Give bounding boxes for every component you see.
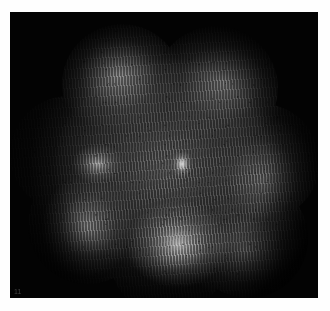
frame-number-label: 11 bbox=[14, 288, 22, 295]
micrograph-viewer: 11 bbox=[0, 0, 330, 311]
micrograph-plate: 11 bbox=[10, 12, 318, 298]
